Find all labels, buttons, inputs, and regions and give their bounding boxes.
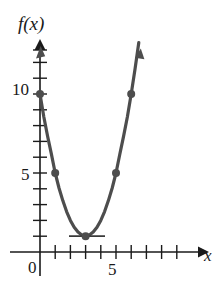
data-point-vertex (82, 232, 90, 240)
plot-canvas (0, 0, 220, 291)
y-tick-label-5: 5 (21, 165, 30, 185)
x-axis-label: x (204, 246, 212, 266)
data-point (112, 169, 120, 177)
origin-label: 0 (28, 258, 37, 278)
parabola-figure: f(x) x 10 5 0 5 (0, 0, 220, 291)
data-point (36, 90, 44, 98)
data-point (127, 90, 135, 98)
data-point (51, 169, 59, 177)
x-tick-label-5: 5 (108, 260, 117, 280)
y-axis-label: f(x) (18, 13, 44, 35)
parabola-curve (40, 43, 139, 237)
data-points (36, 90, 135, 240)
y-tick-label-10: 10 (12, 80, 29, 100)
